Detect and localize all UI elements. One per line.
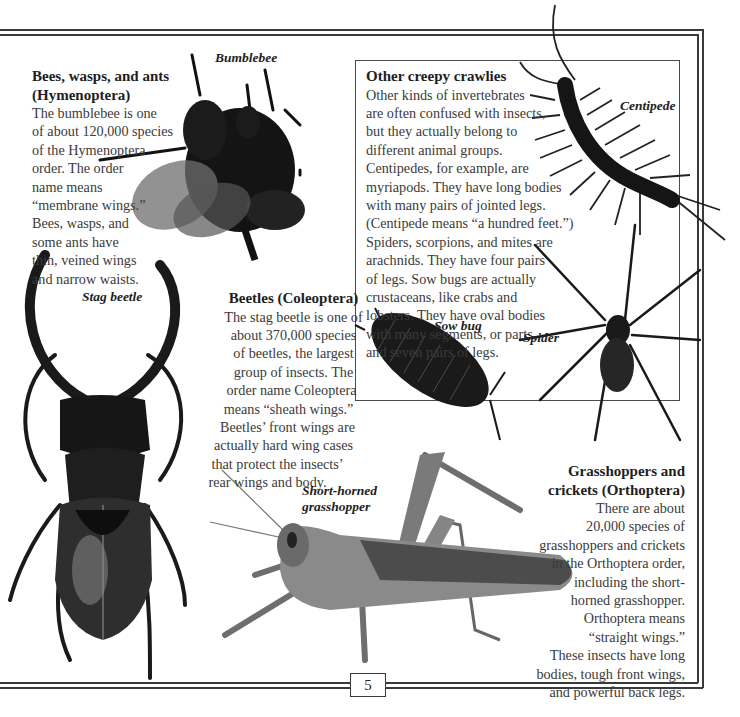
body-line: Beetles’ front wings are (180, 418, 385, 436)
hymenoptera-heading: Bees, wasps, and ants (Hymenoptera) (32, 67, 173, 104)
body-line: including the short- (480, 573, 685, 591)
body-line: grasshoppers and crickets (480, 536, 685, 554)
body-line: of the Hymenoptera (32, 141, 173, 159)
orthoptera-body: There are about 20,000 species of grassh… (480, 499, 685, 701)
caption-bumblebee: Bumblebee (215, 50, 277, 66)
body-line: are often confused with insects, (366, 104, 574, 122)
caption-sow-bug: Sow bug (434, 318, 482, 334)
coleoptera-body: The stag beetle is one of about 370,000 … (180, 308, 385, 492)
caption-spider: Spider (523, 330, 559, 346)
heading-line: crickets (Orthoptera) (480, 481, 685, 500)
body-line: of about 120,000 species (32, 122, 173, 140)
hymenoptera-body: The bumblebee is one of about 120,000 sp… (32, 104, 173, 288)
body-line: of legs. Sow bugs are actually (366, 270, 574, 288)
page-number: 5 (350, 673, 386, 697)
crawlies-heading: Other creepy crawlies (366, 67, 574, 86)
body-line: Spiders, scorpions, and mites are (366, 233, 574, 251)
body-line: order name Coleoptera (180, 381, 385, 399)
body-line: (Centipede means “a hundred feet.”) (366, 214, 574, 232)
coleoptera-heading: Beetles (Coleoptera) (202, 289, 385, 308)
caption-stag-beetle: Stag beetle (82, 289, 142, 305)
body-line: “straight wings.” (480, 628, 685, 646)
body-line: with many pairs of jointed legs. (366, 196, 574, 214)
body-line: These insects have long (480, 646, 685, 664)
body-line: crustaceans, like crabs and (366, 288, 574, 306)
body-line: but they actually belong to (366, 122, 574, 140)
body-line: some ants have (32, 233, 173, 251)
body-line: group of insects. The (180, 363, 385, 381)
body-line: The stag beetle is one of (180, 308, 385, 326)
body-line: order. The order (32, 159, 173, 177)
body-line: arachnids. They have four pairs (366, 251, 574, 269)
heading-line: Grasshoppers and (480, 462, 685, 481)
body-line: Orthoptera means (480, 609, 685, 627)
hymenoptera-section: Bees, wasps, and ants (Hymenoptera) The … (32, 67, 173, 288)
body-line: “membrane wings.” (32, 196, 173, 214)
caption-grasshopper: Short-horned grasshopper (302, 483, 377, 515)
caption-line: grasshopper (302, 499, 377, 515)
heading-line: Bees, wasps, and ants (32, 67, 173, 86)
body-line: of beetles, the largest (180, 344, 385, 362)
body-line: Other kinds of invertebrates (366, 86, 574, 104)
caption-centipede: Centipede (620, 98, 676, 114)
body-line: actually hard wing cases (180, 436, 385, 454)
body-line: in the Orthoptera order, (480, 554, 685, 572)
body-line: means “sheath wings.” (180, 400, 385, 418)
body-line: horned grasshopper. (480, 591, 685, 609)
body-line: about 370,000 species (180, 326, 385, 344)
orthoptera-heading: Grasshoppers and crickets (Orthoptera) (480, 462, 685, 499)
coleoptera-section: Beetles (Coleoptera) The stag beetle is … (180, 289, 385, 492)
body-line: myriapods. They have long bodies (366, 178, 574, 196)
body-line: and narrow waists. (32, 270, 173, 288)
body-line: Bees, wasps, and (32, 214, 173, 232)
body-line: that protect the insects’ (180, 455, 385, 473)
body-line: Centipedes, for example, are (366, 159, 574, 177)
body-line: thin, veined wings (32, 251, 173, 269)
body-line: and powerful back legs. (480, 683, 685, 701)
caption-line: Short-horned (302, 483, 377, 499)
body-line: The bumblebee is one (32, 104, 173, 122)
body-line: There are about (480, 499, 685, 517)
body-line: bodies, tough front wings, (480, 665, 685, 683)
body-line: name means (32, 178, 173, 196)
body-line: 20,000 species of (480, 517, 685, 535)
orthoptera-section: Grasshoppers and crickets (Orthoptera) T… (480, 462, 685, 701)
body-line: different animal groups. (366, 141, 574, 159)
heading-line: (Hymenoptera) (32, 86, 173, 105)
